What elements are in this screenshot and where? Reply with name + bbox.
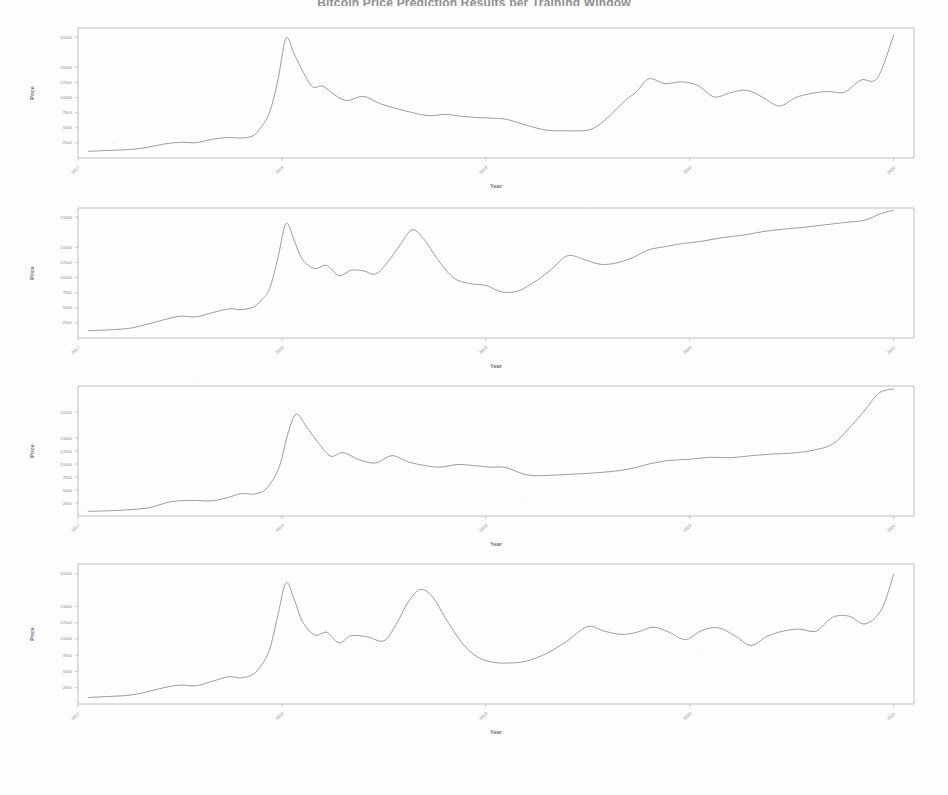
x-tick-label: 2020 [682,345,693,355]
x-tick-label: 2017 [70,711,81,721]
y-tick-label: 5000 [63,125,73,130]
y-tick-label: 20000 [60,215,72,220]
y-tick-label: 12500 [60,620,72,625]
y-tick-label: 15000 [60,65,72,70]
x-axis-title: Year [490,729,503,735]
y-tick-label: 10000 [60,462,72,467]
y-tick-label: 2500 [63,685,73,690]
y-tick-label: 20000 [60,571,72,576]
x-tick-label: 2017 [70,165,81,175]
plot-frame [78,386,914,516]
x-tick-label: 2019 [478,165,489,175]
price-line [88,210,893,330]
chart-panel-2: 2500500075001000012500150002000020172018… [0,200,948,390]
x-tick-label: 2018 [274,345,285,355]
x-tick-label: 2020 [682,165,693,175]
y-tick-label: 12500 [60,80,72,85]
y-tick-label: 5000 [63,305,73,310]
y-tick-label: 10000 [60,636,72,641]
x-axis-title: Year [490,541,503,547]
page-title: Bitcoin Price Prediction Results per Tra… [0,0,948,6]
y-tick-label: 2500 [63,501,73,506]
x-tick-label: 2019 [478,345,489,355]
y-tick-label: 2500 [63,140,73,145]
y-axis-title: Price [29,266,35,280]
x-tick-label: 2017 [70,345,81,355]
y-tick-label: 10000 [60,95,72,100]
y-tick-label: 5000 [63,669,73,674]
y-tick-label: 2500 [63,320,73,325]
y-tick-label: 7500 [63,653,73,658]
price-line [88,389,893,511]
x-tick-label: 2021 [886,711,897,721]
x-tick-label: 2019 [478,523,489,533]
price-line [88,35,893,151]
x-tick-label: 2017 [70,523,81,533]
x-axis-title: Year [490,363,503,369]
y-tick-label: 7500 [63,290,73,295]
y-tick-label: 7500 [63,110,73,115]
plot-frame [78,564,914,704]
y-tick-label: 20000 [60,410,72,415]
x-tick-label: 2018 [274,523,285,533]
x-tick-label: 2018 [274,711,285,721]
plot-frame [78,28,914,158]
x-tick-label: 2019 [478,711,489,721]
x-tick-label: 2021 [886,523,897,533]
y-tick-label: 5000 [63,488,73,493]
y-tick-label: 15000 [60,436,72,441]
y-tick-label: 15000 [60,245,72,250]
price-line [88,574,893,697]
x-tick-label: 2021 [886,165,897,175]
y-tick-label: 12500 [60,260,72,265]
x-tick-label: 2020 [682,711,693,721]
x-axis-title: Year [490,183,503,189]
x-tick-label: 2020 [682,523,693,533]
plot-frame [78,208,914,338]
y-axis-title: Price [29,444,35,458]
y-tick-label: 10000 [60,275,72,280]
y-tick-label: 7500 [63,475,73,480]
y-tick-label: 15000 [60,604,72,609]
chart-panel-4: 2500500075001000012500150002000020172018… [0,556,948,756]
y-tick-label: 12500 [60,449,72,454]
chart-panel-3: 2500500075001000012500150002000020172018… [0,378,948,568]
y-axis-title: Price [29,627,35,641]
x-tick-label: 2021 [886,345,897,355]
x-tick-label: 2018 [274,165,285,175]
y-axis-title: Price [29,86,35,100]
chart-panel-1: 2500500075001000012500150002000020172018… [0,20,948,210]
y-tick-label: 20000 [60,35,72,40]
